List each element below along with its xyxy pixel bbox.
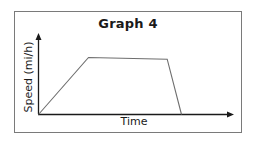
- plot-area: [0, 0, 256, 142]
- y-axis-arrow-icon: [36, 33, 42, 40]
- x-axis-arrow-icon: [227, 112, 234, 118]
- speed-line: [39, 58, 182, 115]
